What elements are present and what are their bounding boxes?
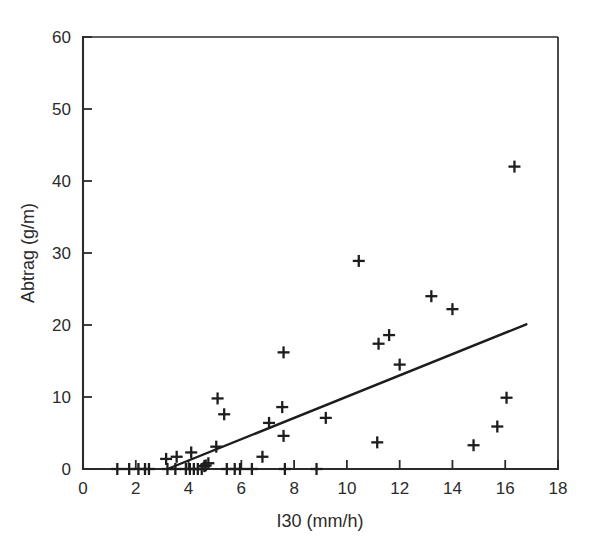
scatter-plot: 024681012141618 0102030405060 I30 (mm/h)…: [0, 0, 601, 548]
data-point-marker: [371, 436, 383, 448]
chart-figure: 024681012141618 0102030405060 I30 (mm/h)…: [0, 0, 601, 548]
data-point-marker: [256, 451, 268, 463]
data-point-marker: [373, 338, 385, 350]
data-point-marker: [508, 161, 520, 173]
y-tick-label: 0: [62, 460, 71, 479]
x-tick-label: 12: [390, 479, 409, 498]
y-axis-label: Abtrag (g/m): [18, 203, 38, 303]
data-point-marker: [501, 392, 513, 404]
x-tick-label: 10: [337, 479, 356, 498]
data-point-marker: [383, 329, 395, 341]
data-point-marker: [212, 392, 224, 404]
data-point-marker: [278, 346, 290, 358]
x-axis-ticks: [83, 460, 558, 469]
x-tick-label: 8: [289, 479, 298, 498]
data-point-marker: [311, 463, 323, 475]
data-point-marker: [276, 401, 288, 413]
y-tick-label: 10: [52, 388, 71, 407]
data-point-marker: [278, 430, 290, 442]
x-tick-label: 2: [131, 479, 140, 498]
x-tick-label: 6: [237, 479, 246, 498]
data-point-marker: [491, 421, 503, 433]
x-tick-label: 14: [443, 479, 462, 498]
x-axis-tick-labels: 024681012141618: [78, 479, 567, 498]
x-tick-label: 4: [184, 479, 193, 498]
y-tick-label: 40: [52, 172, 71, 191]
plot-frame: [83, 37, 558, 469]
x-axis-label: I30 (mm/h): [276, 511, 363, 531]
data-point-marker: [111, 463, 123, 475]
data-point-marker: [320, 412, 332, 424]
x-tick-label: 18: [549, 479, 568, 498]
data-point-marker: [218, 408, 230, 420]
data-point-marker: [446, 303, 458, 315]
data-point-marker: [425, 290, 437, 302]
y-tick-label: 20: [52, 316, 71, 335]
data-point-marker: [160, 453, 172, 465]
data-point-marker: [171, 451, 183, 463]
data-point-marker: [246, 463, 258, 475]
y-tick-label: 30: [52, 244, 71, 263]
data-point-marker: [468, 439, 480, 451]
data-point-marker: [353, 255, 365, 267]
y-tick-label: 60: [52, 28, 71, 47]
x-tick-label: 16: [496, 479, 515, 498]
y-axis-ticks: [83, 37, 92, 469]
data-point-marker: [279, 463, 291, 475]
data-markers: [111, 161, 520, 475]
x-tick-label: 0: [78, 479, 87, 498]
y-axis-tick-labels: 0102030405060: [52, 28, 71, 479]
y-tick-label: 50: [52, 100, 71, 119]
data-point-marker: [394, 359, 406, 371]
